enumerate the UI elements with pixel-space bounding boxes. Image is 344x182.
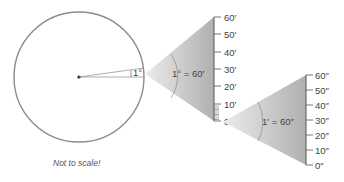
tick-40-arcmin: 40′ <box>224 47 237 58</box>
cone1-label: 1° = 60′ <box>172 68 204 79</box>
tick-60-arcsec: 60″ <box>315 70 330 81</box>
tick-40-arcsec: 40″ <box>315 100 330 111</box>
angle-subdivision-diagram: 1° 1° = 60′ 60′ 50′ 40′ 30′ 20′ 1 <box>0 0 344 182</box>
tick-10-arcsec: 10″ <box>315 145 330 156</box>
cone-degree-to-arcminutes: 1° = 60′ <box>145 17 214 121</box>
tick-50-arcmin: 50′ <box>224 29 237 40</box>
cone2-label: 1′ = 60″ <box>262 116 294 127</box>
tick-20-arcmin: 20′ <box>224 81 237 92</box>
tick-30-arcsec: 30″ <box>315 115 330 126</box>
arcminute-scale: 60′ 50′ 40′ 30′ 20′ 10′ 0′ <box>214 12 237 127</box>
tick-0-arcsec: 0″ <box>315 160 324 171</box>
small-angle-label: 1° <box>133 67 142 78</box>
arcsecond-scale: 60″ 50″ 40″ 30″ 20″ 10″ 0″ <box>306 70 330 171</box>
tick-50-arcsec: 50″ <box>315 85 330 96</box>
tick-20-arcsec: 20″ <box>315 130 330 141</box>
tick-30-arcmin: 30′ <box>224 64 237 75</box>
not-to-scale-note: Not to scale! <box>53 158 101 168</box>
one-degree-wedge: 1° <box>79 67 144 78</box>
tick-10-arcmin: 10′ <box>224 99 237 110</box>
tick-60-arcmin: 60′ <box>224 12 237 23</box>
